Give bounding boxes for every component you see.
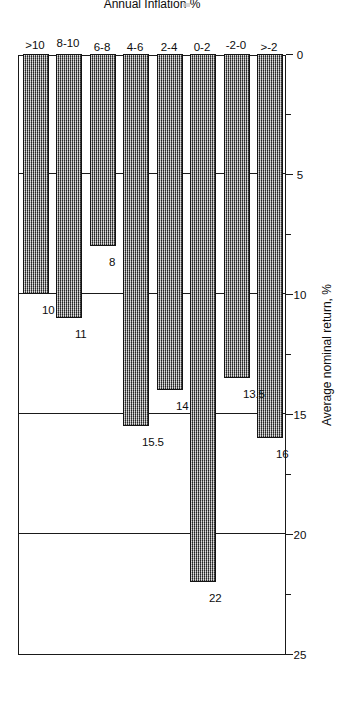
bar-value-label: 16	[276, 448, 288, 460]
bar[interactable]	[23, 54, 49, 294]
value-axis-label: 20	[294, 529, 307, 541]
value-axis-label: 10	[294, 289, 307, 301]
axis-tick-minor	[286, 234, 291, 235]
category-axis-label: >-2	[253, 9, 287, 55]
bar-value-label: 11	[75, 328, 87, 340]
plot-area: 1613.5221415.581110	[18, 55, 286, 655]
plot-inner: 1613.5221415.581110	[19, 56, 285, 654]
category-axis-label-text: -2-0	[226, 39, 246, 51]
category-axis-label-text: 0-2	[194, 41, 211, 53]
bar[interactable]	[257, 54, 283, 438]
bar[interactable]	[157, 54, 183, 390]
value-axis-label: 5	[297, 169, 303, 181]
bar[interactable]	[56, 54, 82, 318]
category-axis-label-text: 6-8	[93, 41, 110, 53]
bar-slot: 13.5	[220, 54, 253, 654]
bar[interactable]	[123, 54, 149, 426]
bar[interactable]	[90, 54, 116, 246]
category-axis-label-text: >10	[25, 39, 45, 51]
category-axis-label-text: 2-4	[160, 41, 177, 53]
bar-slot: 14	[153, 54, 186, 654]
category-axis-label-text: 4-6	[127, 41, 144, 53]
axis-tick-major	[286, 654, 293, 655]
category-axis-label: 8-10	[52, 9, 86, 55]
value-axis-title: Average nominal return, %	[320, 55, 334, 655]
bar-value-label: 15.5	[142, 436, 164, 448]
axis-tick-minor	[286, 474, 291, 475]
category-axis-label: 6-8	[85, 9, 119, 55]
category-axis-label-text: >-2	[261, 41, 278, 53]
category-axis-label-text: 8-10	[57, 37, 80, 49]
bar-series: 1613.5221415.581110	[19, 56, 285, 654]
bar-chart-figure: 1613.5221415.581110 0510152025 Average n…	[0, 0, 361, 727]
bar-slot: 22	[187, 54, 220, 654]
category-axis-label: -2-0	[219, 9, 253, 55]
bar-value-label: 14	[176, 400, 188, 412]
bar-slot: 15.5	[120, 54, 153, 654]
bar-slot: 8	[86, 54, 119, 654]
axis-tick-minor	[286, 594, 291, 595]
bar-slot: 16	[254, 54, 287, 654]
value-axis-label: 15	[294, 409, 307, 421]
axis-tick-minor	[286, 354, 291, 355]
category-axis-title: Annual Inflation %	[18, 0, 286, 11]
bar-slot: 10	[19, 54, 52, 654]
category-axis-label: 4-6	[119, 9, 153, 55]
axis-tick-major	[286, 414, 293, 415]
bar-value-label: 22	[209, 592, 221, 604]
category-axis-label: 0-2	[186, 9, 220, 55]
bar-value-label: 13.5	[243, 388, 265, 400]
bar[interactable]	[224, 54, 250, 378]
bar-slot: 11	[53, 54, 86, 654]
scan-artifact	[183, 3, 190, 7]
axis-tick-major	[286, 174, 293, 175]
bar-value-label: 10	[42, 304, 54, 316]
axis-tick-minor	[286, 114, 291, 115]
category-axis-label: 2-4	[152, 9, 186, 55]
category-axis-labels: >-2-2-00-22-44-66-88-10>10	[18, 9, 286, 55]
axis-tick-major	[286, 294, 293, 295]
axis-tick-major	[286, 534, 293, 535]
value-axis-label: 0	[297, 49, 303, 61]
category-axis-label: >10	[18, 9, 52, 55]
value-axis-label: 25	[294, 649, 307, 661]
chart-stage: 1613.5221415.581110 0510152025 Average n…	[0, 0, 361, 727]
bar[interactable]	[190, 54, 216, 582]
bar-value-label: 8	[109, 256, 115, 268]
axis-tick-major	[286, 54, 293, 55]
